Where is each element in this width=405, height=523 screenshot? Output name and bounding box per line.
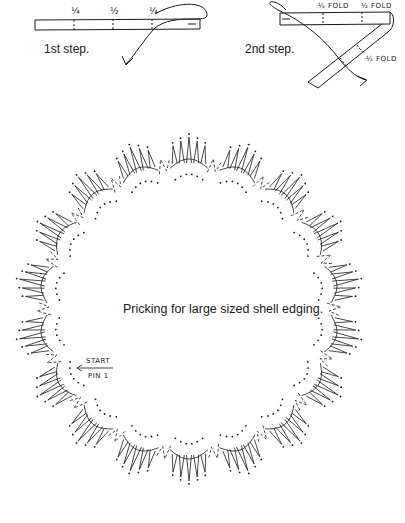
scallop [109,425,159,474]
scallop [261,170,309,220]
start-label: START [86,357,110,365]
step1-mark-quarter-right: ¼ [149,6,158,16]
scallop [16,252,65,303]
step2-mark-half-fold: ½ FOLD [361,2,392,10]
scallop [209,425,262,474]
scallop [220,144,270,193]
step2-mark-quarter-fold-top: ¼ FOLD [318,2,349,10]
step1-mark-half: ½ [110,6,119,16]
step1-label: 1st step. [44,42,89,56]
step2-label: 2nd step. [245,42,294,56]
scallop [116,144,169,193]
scallop [157,437,208,485]
scallop [69,398,117,448]
scallop [69,170,121,219]
scallop [257,398,309,447]
pricking-caption: Pricking for large sized shell edging. [123,302,323,316]
start-arrow-icon [77,365,113,371]
step1-mark-quarter-left: ¼ [71,6,80,16]
scallop [293,361,342,410]
scallop [293,211,342,264]
scallop [16,303,65,355]
pin-label: PIN 1 [88,372,109,380]
step2-mark-quarter-fold-lower: ¼ FOLD [366,55,397,63]
diagram-canvas [0,0,405,523]
scallop [36,354,85,407]
scallop [313,315,362,366]
scallop [170,133,221,181]
scallop [36,208,85,257]
